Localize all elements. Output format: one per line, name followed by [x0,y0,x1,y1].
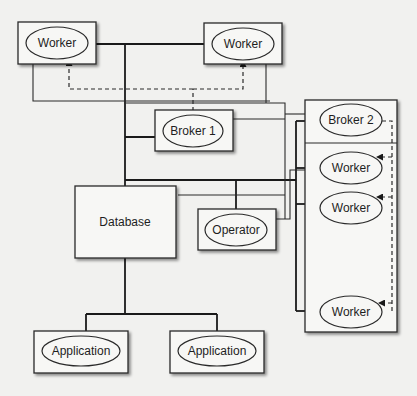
architecture-diagram: Worker Worker Broker 1 Broker 2 Worker W… [0,0,417,396]
broker-2-label: Broker 2 [328,113,374,127]
worker-right-3-label: Worker [332,305,370,319]
node-worker-right-1[interactable]: Worker [320,152,382,184]
database-label: Database [99,215,151,229]
application-right-label: Application [188,344,247,358]
edge-dash-worker-tr [193,62,243,89]
broker-1-label: Broker 1 [170,124,216,138]
node-operator[interactable]: Operator [198,209,276,250]
operator-label: Operator [212,223,259,237]
node-broker-2-cluster[interactable]: Broker 2 Worker Worker Worker [305,100,397,332]
node-worker-top-left[interactable]: Worker [18,22,96,64]
application-left-label: Application [52,344,111,358]
node-worker-right-2[interactable]: Worker [320,192,382,224]
worker-top-left-label: Worker [38,36,76,50]
node-broker-1[interactable]: Broker 1 [155,110,233,151]
edge-dash-worker-tl [69,61,193,89]
worker-top-right-label: Worker [224,37,262,51]
node-broker-2[interactable]: Broker 2 [320,104,382,136]
worker-right-2-label: Worker [332,201,370,215]
node-application-right[interactable]: Application [170,331,264,373]
node-worker-top-right[interactable]: Worker [204,23,282,64]
worker-right-1-label: Worker [332,161,370,175]
node-application-left[interactable]: Application [34,331,128,373]
node-database[interactable]: Database [75,186,176,258]
node-worker-right-3[interactable]: Worker [320,296,382,328]
